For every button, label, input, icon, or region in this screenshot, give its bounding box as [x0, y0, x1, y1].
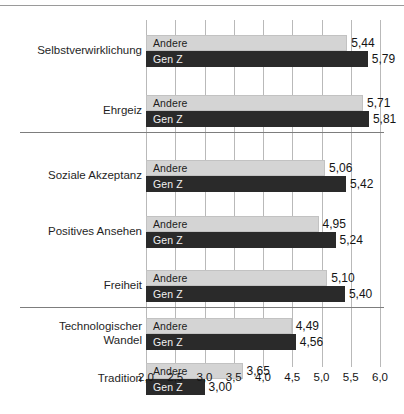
series-label-andere: Andere [153, 320, 187, 332]
series-label-genz: Gen Z [153, 53, 183, 65]
value-label-genz: 5,42 [346, 177, 373, 191]
gridline [380, 20, 381, 367]
bar-row: Gen Z5,42 [146, 176, 380, 192]
x-tick-label: 4,5 [284, 371, 300, 383]
bar-andere[interactable]: Andere [146, 35, 347, 51]
series-label-genz: Gen Z [153, 288, 183, 300]
series-label-andere: Andere [153, 162, 187, 174]
category-label: Selbstverwirklichung [2, 44, 142, 58]
category-label: Technologischer Wandel [2, 320, 142, 347]
bar-row: Andere5,71 [146, 95, 380, 111]
bar-genz[interactable]: Gen Z [146, 51, 368, 67]
bar-genz[interactable]: Gen Z [146, 111, 369, 127]
bar-genz[interactable]: Gen Z [146, 286, 345, 302]
gridline [322, 20, 323, 367]
x-axis: 2,02,53,03,54,04,55,05,56,0 [146, 367, 380, 387]
bar-row: Gen Z4,56 [146, 334, 380, 350]
bar-row: Gen Z5,81 [146, 111, 380, 127]
category-label: Tradition [2, 372, 142, 386]
category-label: Ehrgeiz [2, 104, 142, 118]
x-tick-label: 2,5 [167, 371, 183, 383]
gridline [234, 20, 235, 367]
category-label: Soziale Akzeptanz [2, 169, 142, 183]
bar-genz[interactable]: Gen Z [146, 176, 346, 192]
category-label-column: SelbstverwirklichungEhrgeizSoziale Akzep… [0, 20, 142, 367]
x-tick-label: 6,0 [372, 371, 388, 383]
bar-genz[interactable]: Gen Z [146, 334, 296, 350]
group-separator [20, 307, 384, 308]
bar-andere[interactable]: Andere [146, 95, 363, 111]
gridline [292, 20, 293, 367]
value-label-andere: 5,44 [347, 36, 374, 50]
value-label-andere: 5,71 [363, 96, 390, 110]
gridline [351, 20, 352, 367]
series-label-genz: Gen Z [153, 336, 183, 348]
gridline [175, 20, 176, 367]
top-rule [0, 5, 404, 6]
x-tick-label: 3,0 [197, 371, 213, 383]
bar-row: Andere5,10 [146, 270, 380, 286]
bar-andere[interactable]: Andere [146, 318, 292, 334]
value-label-genz: 4,56 [296, 335, 323, 349]
bar-row: Andere5,06 [146, 160, 380, 176]
x-tick-label: 2,0 [138, 371, 154, 383]
bar-genz[interactable]: Gen Z [146, 232, 336, 248]
series-label-andere: Andere [153, 37, 187, 49]
bar-andere[interactable]: Andere [146, 270, 327, 286]
value-label-genz: 5,79 [368, 52, 395, 66]
bar-row: Gen Z5,79 [146, 51, 380, 67]
series-label-andere: Andere [153, 97, 187, 109]
series-label-genz: Gen Z [153, 178, 183, 190]
gridline [205, 20, 206, 367]
bar-row: Gen Z5,40 [146, 286, 380, 302]
value-label-andere: 5,10 [327, 271, 354, 285]
bar-andere[interactable]: Andere [146, 216, 319, 232]
gridline [263, 20, 264, 367]
category-label: Freiheit [2, 279, 142, 293]
bar-row: Gen Z5,24 [146, 232, 380, 248]
x-tick-label: 5,0 [314, 371, 330, 383]
bar-andere[interactable]: Andere [146, 160, 325, 176]
value-label-andere: 4,95 [319, 217, 346, 231]
value-label-andere: 5,06 [325, 161, 352, 175]
group-separator [20, 132, 384, 133]
value-label-andere: 4,49 [292, 319, 319, 333]
x-tick-label: 3,5 [226, 371, 242, 383]
bar-row: Andere4,49 [146, 318, 380, 334]
series-label-genz: Gen Z [153, 113, 183, 125]
value-label-genz: 5,81 [369, 112, 396, 126]
gridline [146, 20, 147, 367]
value-label-genz: 5,24 [336, 233, 363, 247]
value-label-genz: 5,40 [345, 287, 372, 301]
plot-area: Andere5,44Gen Z5,79Andere5,71Gen Z5,81An… [146, 20, 380, 367]
x-tick-label: 5,5 [343, 371, 359, 383]
x-tick-label: 4,0 [255, 371, 271, 383]
bar-row: Andere4,95 [146, 216, 380, 232]
bar-row: Andere5,44 [146, 35, 380, 51]
series-label-andere: Andere [153, 218, 187, 230]
series-label-andere: Andere [153, 272, 187, 284]
bar-chart: Andere5,44Gen Z5,79Andere5,71Gen Z5,81An… [0, 0, 404, 414]
series-label-genz: Gen Z [153, 234, 183, 246]
category-label: Positives Ansehen [2, 225, 142, 239]
